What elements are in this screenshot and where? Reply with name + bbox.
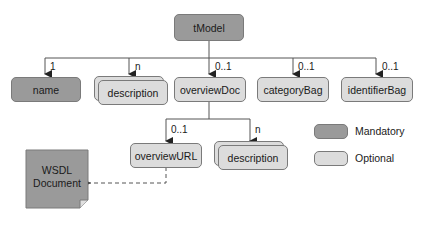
node-label: name	[33, 84, 59, 96]
cardinality-label: 0..1	[382, 61, 399, 72]
node-tmodel: tModel	[174, 14, 244, 41]
cardinality-label: 0..1	[215, 61, 232, 72]
wsdl-document: WSDL Document	[26, 164, 88, 190]
legend-label: Optional	[355, 152, 394, 164]
node-identifierbag: identifierBag	[341, 77, 413, 102]
node-label: overviewDoc	[180, 84, 240, 96]
cardinality-label: 1	[50, 61, 56, 72]
node-label: tModel	[193, 22, 225, 34]
document-label: Document	[26, 177, 88, 190]
node-label: categoryBag	[264, 84, 323, 96]
node-name: name	[11, 77, 81, 102]
node-label: description	[108, 87, 159, 99]
node-label: description	[228, 152, 279, 164]
node-categorybag: categoryBag	[257, 77, 329, 102]
document-label: WSDL	[26, 164, 88, 177]
legend-label: Mandatory	[355, 125, 405, 137]
cardinality-label: n	[135, 61, 141, 72]
cardinality-label: n	[255, 124, 261, 135]
node-overviewdoc: overviewDoc	[174, 77, 246, 102]
cardinality-label: 0..1	[298, 61, 315, 72]
legend-swatch-optional	[314, 151, 348, 166]
node-description: description	[98, 80, 168, 105]
node-label: overviewURL	[135, 150, 197, 162]
legend-swatch-mandatory	[314, 124, 348, 139]
node-description-2: description	[218, 145, 288, 170]
cardinality-label: 0..1	[171, 124, 188, 135]
node-label: identifierBag	[348, 84, 406, 96]
node-overviewurl: overviewURL	[130, 143, 202, 168]
